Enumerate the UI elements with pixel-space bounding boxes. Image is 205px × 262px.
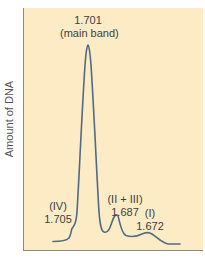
band-i-name: (I) — [132, 207, 168, 220]
main-band-label: 1.701 (main band) — [60, 14, 116, 40]
band-iv-label: (IV) 1.705 — [40, 200, 76, 226]
main-band-name: (main band) — [60, 27, 116, 40]
band-ii-iii-name: (II + III) — [103, 193, 147, 206]
band-iv-value: 1.705 — [40, 213, 76, 226]
y-axis-label: Amount of DNA — [3, 77, 17, 161]
band-i-label: (I) 1.672 — [132, 207, 168, 233]
main-band-value: 1.701 — [60, 14, 116, 27]
band-i-value: 1.672 — [132, 220, 168, 233]
band-iv-name: (IV) — [40, 200, 76, 213]
